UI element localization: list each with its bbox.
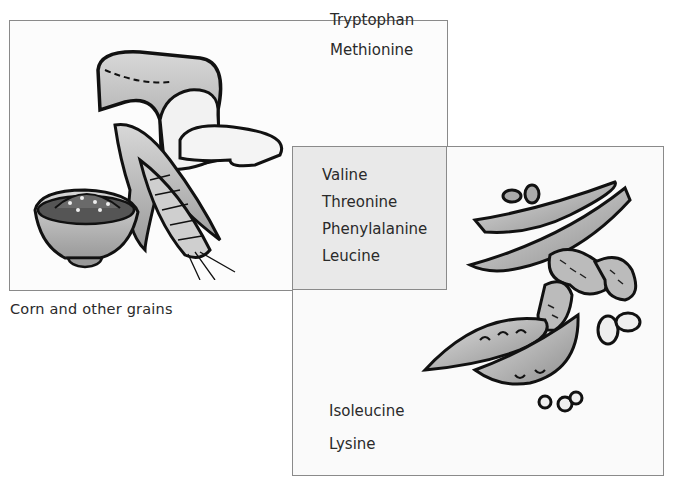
- amino-acid-label: Tryptophan: [330, 5, 414, 35]
- grains-only-list: Tryptophan Methionine: [330, 5, 414, 65]
- amino-acid-label: Valine: [322, 162, 427, 189]
- grains-caption: Corn and other grains: [10, 301, 173, 317]
- legumes-only-list: Isoleucine Lysine: [329, 395, 404, 461]
- amino-acid-label: Lysine: [329, 428, 404, 461]
- amino-acid-label: Isoleucine: [329, 395, 404, 428]
- legumes-illustration-icon: [420, 170, 650, 420]
- grains-illustration-icon: [30, 40, 290, 280]
- amino-acid-label: Threonine: [322, 189, 427, 216]
- amino-acid-label: Leucine: [322, 243, 427, 270]
- amino-acid-label: Methionine: [330, 35, 414, 65]
- amino-acid-label: Phenylalanine: [322, 216, 427, 243]
- shared-list: Valine Threonine Phenylalanine Leucine: [322, 162, 427, 270]
